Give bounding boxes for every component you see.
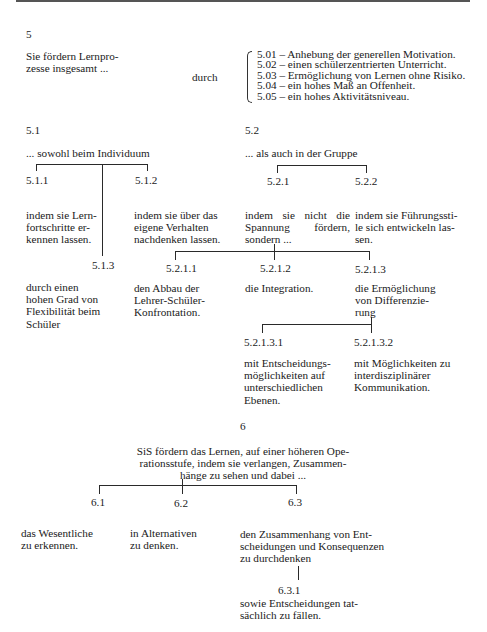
- node-5-2-1-2-text: die Integration.: [245, 282, 313, 294]
- section-5-1-heading: ... sowohl beim Individuum: [26, 147, 150, 159]
- node-5-1-3-text: durch einen hohen Grad von Flexibilität …: [26, 281, 100, 330]
- tree-line: [366, 165, 367, 173]
- node-6-2-number: 6.2: [174, 497, 188, 509]
- node-5-2-1-1-text: den Abbau der Lehrer-Schüler- Konfrontat…: [134, 282, 205, 319]
- tree-line: [175, 251, 176, 260]
- brace-bracket: [247, 51, 252, 103]
- node-5-1-1-text: indem sie Lern- fortschritte er- kennen …: [26, 209, 97, 246]
- section-5-number: 5: [26, 28, 32, 40]
- text-line: indem sie nicht die: [245, 209, 350, 221]
- connector-durch: durch: [192, 71, 217, 83]
- tree-line: [298, 566, 299, 580]
- tree-line: [274, 244, 275, 260]
- section-5-2-heading: ... als auch in der Gruppe: [245, 147, 357, 159]
- section-6-number: 6: [240, 420, 246, 432]
- text-line: Spannung fördern,: [245, 221, 350, 233]
- node-5-1-2-text: indem sie über das eigene Verhalten nach…: [134, 209, 220, 246]
- node-5-2-2-number: 5.2.2: [355, 175, 377, 187]
- node-6-3-number: 6.3: [288, 496, 302, 508]
- tree-line: [175, 251, 370, 252]
- tree-line: [102, 164, 103, 256]
- page-top-rule: [16, 0, 470, 2]
- tree-line: [36, 164, 37, 171]
- node-5-2-1-3-1-number: 5.2.1.3.1: [244, 336, 283, 348]
- tree-line: [277, 165, 367, 166]
- node-6-1-number: 6.1: [91, 496, 105, 508]
- tree-line: [99, 485, 297, 486]
- tree-line: [262, 324, 372, 325]
- tree-line: [99, 485, 100, 494]
- node-5-2-2-text: indem sie Führungssti- le sich entwickel…: [355, 209, 458, 246]
- node-5-1-1-number: 5.1.1: [26, 174, 48, 186]
- tree-line: [147, 164, 148, 171]
- tree-line: [371, 317, 372, 333]
- tree-line: [369, 251, 370, 260]
- node-5-1-2-number: 5.1.2: [135, 174, 157, 186]
- node-6-2-text: in Alternativen zu denken.: [130, 527, 197, 551]
- node-5-2-1-3-text: die Ermöglichung von Differenzie- rung: [355, 282, 435, 319]
- tree-line: [182, 479, 183, 494]
- node-6-3-text: den Zusammenhang von Ent- scheidungen un…: [240, 528, 384, 565]
- section-5-1-number: 5.1: [26, 124, 40, 136]
- section-6-intro: SiS fördern das Lernen, auf einer höhere…: [128, 445, 358, 482]
- list-item: 5.05 – ein hohes Aktivitätsniveau.: [257, 91, 465, 101]
- tree-line: [296, 485, 297, 494]
- section-5-item-list: 5.01 – Anhebung der generellen Motivatio…: [257, 49, 465, 101]
- node-5-2-1-3-2-text: mit Möglichkeiten zu interdisziplinärer …: [354, 357, 450, 394]
- tree-line: [36, 164, 148, 165]
- node-5-2-1-3-1-text: mit Entscheidungs- möglichkeiten auf unt…: [244, 357, 331, 406]
- text-line: sondern ...: [245, 233, 350, 245]
- section-5-intro: Sie fördern Lernpro- zesse insgesamt ...: [26, 50, 136, 74]
- node-5-2-1-1-number: 5.2.1.1: [166, 262, 197, 274]
- section-5-2-number: 5.2: [245, 124, 259, 136]
- node-5-2-1-text: indem sie nicht die Spannung fördern, so…: [245, 209, 350, 246]
- node-5-2-1-2-number: 5.2.1.2: [260, 262, 291, 274]
- node-6-1-text: das Wesentliche zu erkennen.: [21, 527, 93, 551]
- node-6-3-1-text: sowie Entscheidungen tat- sächlich zu fä…: [240, 597, 358, 621]
- node-5-1-3-number: 5.1.3: [92, 259, 114, 271]
- node-6-3-1-number: 6.3.1: [278, 584, 300, 596]
- node-5-2-1-number: 5.2.1: [267, 175, 289, 187]
- node-5-2-1-3-2-number: 5.2.1.3.2: [354, 336, 393, 348]
- node-5-2-1-3-number: 5.2.1.3: [355, 263, 386, 275]
- tree-line: [277, 165, 278, 173]
- tree-line: [262, 324, 263, 333]
